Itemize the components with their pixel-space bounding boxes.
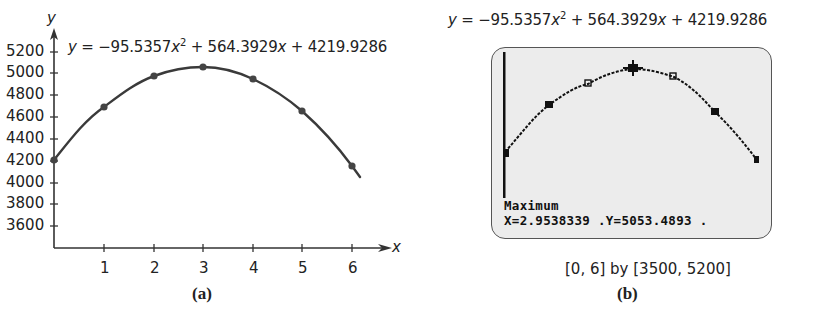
fit-curve <box>54 67 360 177</box>
eq-coef-a: −95.5357 <box>98 38 171 56</box>
y-tick-label: 4000 <box>6 175 44 190</box>
eq-coef-a: −95.5357 <box>478 11 551 29</box>
eq-plus: + <box>186 38 208 56</box>
data-point <box>50 156 57 163</box>
calc-data-point <box>545 101 553 108</box>
y-tick-label: 4200 <box>6 153 44 168</box>
eq-plus: + <box>666 11 688 29</box>
calc-data-point <box>711 108 719 115</box>
y-tick-label: 4400 <box>6 131 44 146</box>
equation-label-a: y = −95.5357x2 + 564.3929x + 4219.9286 <box>68 38 387 56</box>
y-tick-label: 5000 <box>6 65 44 80</box>
data-point <box>100 103 107 110</box>
eq-plus: + <box>566 11 588 29</box>
eq-sign: = <box>77 38 99 56</box>
y-tick-label: 5200 <box>6 44 44 59</box>
x-tick-label: 4 <box>249 259 259 277</box>
eq-lhs: y <box>448 11 457 29</box>
eq-var: x <box>278 38 287 56</box>
viewing-window-label: [0, 6] by [3500, 5200] <box>565 260 731 278</box>
calculator-screen: Maximum X=2.9538339 .Y=5053.4893 . <box>491 47 772 239</box>
eq-sign: = <box>457 11 479 29</box>
eq-const: 4219.9286 <box>308 38 387 56</box>
data-point <box>199 63 206 70</box>
eq-const: 4219.9286 <box>688 11 767 29</box>
eq-coef-b: 564.3929 <box>588 11 658 29</box>
caption-a: (a) <box>192 284 212 304</box>
eq-lhs: y <box>68 38 77 56</box>
y-tick-label: 3600 <box>6 218 44 233</box>
data-point <box>249 75 256 82</box>
equation-label-b: y = −95.5357x2 + 564.3929x + 4219.9286 <box>448 11 767 29</box>
eq-plus: + <box>286 38 308 56</box>
eq-coef-b: 564.3929 <box>208 38 278 56</box>
y-axis-label: y <box>47 9 56 27</box>
data-point <box>348 162 355 169</box>
x-tick-label: 6 <box>348 259 358 277</box>
y-tick-label: 4600 <box>6 109 44 124</box>
data-point <box>150 72 157 79</box>
data-points <box>50 63 355 169</box>
panel-a: y x 5200 5000 4800 4600 4400 4200 4000 3… <box>0 0 400 329</box>
trace-cursor-icon <box>623 60 643 76</box>
x-tick-label: 5 <box>298 259 308 277</box>
y-tick-label: 3800 <box>6 196 44 211</box>
x-tick-label: 3 <box>199 259 209 277</box>
eq-var: x <box>171 38 180 56</box>
calc-data-point <box>754 156 759 163</box>
y-tick-label: 4800 <box>6 87 44 102</box>
eq-var: x <box>551 11 560 29</box>
x-tick-label: 1 <box>100 259 110 277</box>
calc-coordinates: X=2.9538339 .Y=5053.4893 . <box>504 213 707 228</box>
calc-maximum-label: Maximum <box>504 198 559 213</box>
data-point <box>298 107 305 114</box>
calc-data-point <box>503 149 509 157</box>
x-tick-label: 2 <box>150 259 160 277</box>
eq-var: x <box>658 11 667 29</box>
calc-y-axis <box>503 52 506 198</box>
caption-b: (b) <box>617 284 638 304</box>
calc-curve <box>505 69 757 160</box>
